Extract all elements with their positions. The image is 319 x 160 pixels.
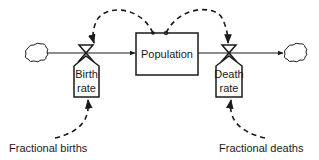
link-fractional-births — [55, 100, 88, 138]
population-stock[interactable]: Population — [136, 33, 198, 75]
fractional-deaths-label[interactable]: Fractional deaths — [219, 142, 304, 154]
birth-rate-label-1: Birth — [75, 68, 98, 80]
stock-flow-diagram: Birth rate Population Death rate Fractio… — [0, 0, 319, 160]
death-rate-node[interactable]: Death rate — [214, 56, 243, 97]
population-label: Population — [141, 48, 193, 60]
fractional-births-label[interactable]: Fractional births — [9, 142, 88, 154]
cloud-sink-icon — [284, 43, 306, 62]
death-rate-label-1: Death — [214, 68, 243, 80]
cloud-source-icon — [25, 43, 47, 62]
birth-rate-node[interactable]: Birth rate — [74, 56, 99, 97]
link-dot-births — [151, 31, 155, 35]
link-dot-deaths — [164, 31, 168, 35]
death-rate-label-2: rate — [220, 82, 239, 94]
link-fractional-deaths — [231, 100, 265, 138]
birth-rate-label-2: rate — [77, 82, 96, 94]
